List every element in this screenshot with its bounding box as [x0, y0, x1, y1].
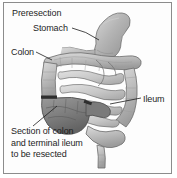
illustration-figure: Preresection Stomach Colon Ileum Section… — [0, 0, 177, 178]
resected-line-1: Section of colon — [11, 126, 73, 136]
resected-line-2: and terminal ileum — [11, 138, 83, 148]
figure-title: Preresection — [12, 8, 61, 19]
resected-line-3: to be resected — [11, 149, 67, 159]
ascending-colon — [41, 62, 57, 98]
label-stomach: Stomach — [33, 23, 68, 34]
stomach-organ — [60, 13, 130, 59]
label-ileum: Ileum — [143, 94, 165, 105]
transection-band-colon — [41, 96, 57, 99]
label-colon: Colon — [11, 47, 34, 58]
leader-line-colon — [36, 52, 52, 60]
leader-line-stomach — [72, 28, 99, 40]
transverse-colon — [44, 53, 141, 71]
label-resected-section: Section of colon and terminal ileum to b… — [11, 126, 107, 161]
